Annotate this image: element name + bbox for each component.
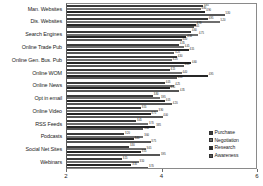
bar-purchase-9 (67, 120, 136, 122)
bar-group: 4.154.404.954.30 (67, 68, 256, 81)
bar-awareness-10 (67, 141, 151, 143)
bar-negotiation-5 (67, 72, 182, 74)
x-tick-mark-2 (257, 169, 258, 172)
bar-research-12 (67, 164, 131, 166)
legend-swatch-icon (209, 154, 213, 158)
y-axis-label-3: Online Trade Pub (22, 45, 62, 50)
bar-value-label: 4.55 (190, 49, 195, 52)
bar-awareness-4 (67, 65, 184, 67)
bar-value-label: 4.45 (185, 64, 190, 67)
bar-negotiation-12 (67, 161, 139, 163)
bar-group-inner: 4.955.204.704.65 (67, 17, 256, 30)
legend-item-purchase[interactable]: Purchase (209, 129, 255, 137)
bar-value-label: 4.30 (178, 77, 183, 80)
bar-purchase-1 (67, 18, 208, 20)
x-tick-mark-1 (162, 169, 163, 172)
legend-swatch-icon (209, 138, 213, 142)
bar-value-label: 3.75 (151, 141, 156, 144)
bar-group-inner: 4.054.254.154.35 (67, 81, 256, 94)
y-axis-label-6: Online News (33, 83, 62, 88)
y-axis-label-7: Opt in email (34, 96, 62, 101)
bar-awareness-1 (67, 26, 194, 28)
bar-purchase-2 (67, 31, 191, 33)
bar-research-11 (67, 151, 141, 153)
bar-value-label: 3.50 (139, 161, 144, 164)
y-axis-label-9: RSS Feeds (35, 122, 62, 127)
x-axis: 246 (0, 169, 263, 186)
bar-value-label: 5.30 (225, 13, 230, 16)
legend-item-awareness[interactable]: Awareness (209, 152, 255, 160)
bar-value-label: 4.25 (175, 84, 180, 87)
bar-purchase-3 (67, 44, 179, 46)
bar-value-label: 4.35 (180, 90, 185, 93)
y-axis-label-5: Online WOM (32, 71, 62, 76)
bar-value-label: 4.75 (199, 33, 204, 36)
bar-research-2 (67, 36, 186, 38)
bar-research-10 (67, 138, 134, 140)
bar-awareness-7 (67, 103, 172, 105)
y-axis-label-10: Podcasts (41, 134, 62, 139)
bar-value-label: 5.20 (221, 20, 226, 23)
bar-group: 4.955.204.704.65 (67, 17, 256, 30)
x-tick-mark-0 (66, 169, 67, 172)
bar-value-label: 4.40 (182, 39, 187, 42)
bar-research-5 (67, 75, 208, 77)
bar-purchase-7 (67, 95, 153, 97)
bar-purchase-8 (67, 107, 141, 109)
legend-swatch-icon (209, 146, 213, 150)
y-axis-label-11: Social Net Sites (26, 147, 62, 152)
y-axis-category-labels: Man. WebsitesDis. WebsitesSearch Engines… (0, 3, 64, 169)
bar-group-inner: 3.553.903.754.00 (67, 106, 256, 119)
bar-negotiation-3 (67, 46, 184, 48)
bar-group: 3.553.903.754.00 (67, 106, 256, 119)
bar-value-label: 4.00 (163, 115, 168, 118)
bar-group-inner: 4.304.204.604.45 (67, 55, 256, 68)
legend-label: Research (215, 145, 236, 150)
bar-negotiation-6 (67, 85, 174, 87)
x-tick-label-1: 4 (160, 173, 163, 179)
bar-value-label: 3.95 (161, 154, 166, 157)
bar-research-8 (67, 113, 151, 115)
legend-label: Awareness (215, 153, 239, 158)
bar-awareness-8 (67, 116, 163, 118)
y-axis-label-8: Online Video (32, 109, 62, 114)
bar-purchase-5 (67, 69, 170, 71)
bar-group: 3.803.954.054.20 (67, 93, 256, 106)
bar-purchase-10 (67, 133, 124, 135)
bar-group-inner: 4.154.404.954.30 (67, 68, 256, 81)
bar-value-label: 4.60 (192, 62, 197, 65)
bar-awareness-3 (67, 52, 174, 54)
bar-purchase-6 (67, 82, 165, 84)
legend-item-negotiation[interactable]: Negotiation (209, 137, 255, 145)
bar-value-label: 3.90 (159, 110, 164, 113)
bar-group-inner: 4.854.804.905.30 (67, 4, 256, 17)
bar-negotiation-2 (67, 34, 198, 36)
bar-purchase-4 (67, 56, 177, 58)
bar-group: 4.354.454.554.25 (67, 42, 256, 55)
bar-value-label: 3.65 (147, 148, 152, 151)
chart-legend: PurchaseNegotiationResearchAwareness (209, 129, 255, 159)
bar-value-label: 3.60 (144, 128, 149, 131)
bar-negotiation-10 (67, 136, 143, 138)
bar-group: 4.854.804.905.30 (67, 4, 256, 17)
legend-item-research[interactable]: Research (209, 144, 255, 152)
bar-research-7 (67, 100, 165, 102)
bar-research-4 (67, 62, 191, 64)
bar-awareness-9 (67, 128, 143, 130)
x-tick-label-0: 2 (64, 173, 67, 179)
bar-group-inner: 4.604.754.504.40 (67, 30, 256, 43)
bar-negotiation-11 (67, 148, 146, 150)
bar-awareness-2 (67, 39, 182, 41)
bar-value-label: 4.20 (173, 103, 178, 106)
bar-negotiation-0 (67, 8, 201, 10)
bar-purchase-11 (67, 146, 129, 148)
bar-group: 4.054.254.154.35 (67, 81, 256, 94)
bar-value-label: 4.30 (178, 56, 183, 59)
bar-negotiation-4 (67, 59, 172, 61)
legend-label: Negotiation (215, 138, 239, 143)
bar-value-label: 4.50 (187, 36, 192, 39)
bar-value-label: 4.95 (209, 74, 214, 77)
y-axis-label-0: Man. Websites (28, 7, 62, 12)
legend-swatch-icon (209, 131, 213, 135)
bar-research-0 (67, 11, 205, 13)
